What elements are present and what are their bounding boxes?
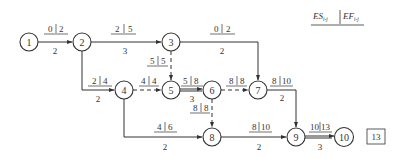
duration-label: 2 [53, 46, 58, 56]
es-label: 4 [157, 122, 162, 132]
ef-label: 8 [194, 76, 199, 86]
svg-text:4: 4 [122, 85, 127, 96]
es-label: 10 [310, 122, 320, 132]
es-label: 0 [48, 24, 53, 34]
es-label: 8 [229, 76, 234, 86]
ef-label: 8 [204, 103, 209, 113]
ef-label: 2 [59, 24, 64, 34]
legend-es: ES [312, 11, 323, 21]
activity-6-7: 8 8 [221, 76, 248, 90]
es-label: 5 [150, 56, 155, 66]
duration-label: 3 [318, 142, 323, 152]
svg-text:2: 2 [80, 37, 85, 48]
duration-label: 2 [257, 142, 262, 152]
duration-label: 2 [220, 46, 225, 56]
es-label: 8 [252, 122, 257, 132]
ef-label: 2 [226, 24, 231, 34]
duration-label: 2 [163, 142, 168, 152]
ef-label: 10 [261, 122, 271, 132]
duration-label: 3 [123, 46, 128, 56]
project-duration-box: 13 [367, 129, 385, 144]
svg-text:10: 10 [339, 132, 349, 143]
node-8: 8 [203, 128, 221, 146]
node-3: 3 [162, 33, 180, 51]
ef-label: 5 [161, 56, 166, 66]
duration-label: 2 [96, 94, 101, 104]
svg-text:5: 5 [169, 85, 174, 96]
network-diagram: ESi-j EFi-j 0 2 2 2 5 3 0 2 2 5 5 [0, 0, 401, 159]
ef-label: 4 [152, 76, 157, 86]
duration-label: 2 [280, 93, 285, 103]
activity-4-5: 4 4 [133, 76, 161, 90]
node-9: 9 [287, 128, 305, 146]
svg-text:9: 9 [294, 132, 299, 143]
es-label: 4 [141, 76, 146, 86]
node-7: 7 [249, 81, 267, 99]
ef-label: 5 [128, 24, 133, 34]
ef-label: 8 [240, 76, 245, 86]
node-5: 5 [162, 81, 180, 99]
es-label: 8 [193, 103, 198, 113]
es-label: 2 [115, 24, 120, 34]
node-1: 1 [20, 33, 38, 51]
ef-label: 6 [168, 122, 173, 132]
ef-label: 13 [321, 122, 331, 132]
activity-7-9: 8 10 2 [267, 76, 296, 127]
node-6: 6 [203, 81, 221, 99]
legend-ef: EF [342, 11, 354, 21]
activity-6-8: 8 8 [190, 99, 212, 127]
svg-text:1: 1 [27, 37, 32, 48]
activity-3-7: 0 2 2 [180, 24, 258, 80]
svg-text:3: 3 [169, 37, 174, 48]
svg-text:ESi-j: ESi-j [312, 11, 328, 22]
legend-es-sub: i-j [323, 16, 328, 22]
es-label: 0 [214, 24, 219, 34]
ef-label: 10 [282, 76, 292, 86]
project-duration-value: 13 [372, 132, 382, 142]
activity-4-8: 4 6 2 [124, 99, 202, 152]
activity-1-2: 0 2 2 [38, 24, 72, 56]
svg-text:EFi-j: EFi-j [342, 11, 359, 22]
node-4: 4 [115, 81, 133, 99]
es-label: 8 [272, 76, 277, 86]
activity-8-9: 8 10 2 [221, 122, 286, 152]
legend-ef-sub: i-j [354, 16, 359, 22]
svg-text:7: 7 [256, 85, 261, 96]
activity-2-3: 2 5 3 [91, 24, 161, 56]
legend: ESi-j EFi-j [311, 10, 364, 25]
ef-label: 4 [103, 76, 108, 86]
activity-2-4: 2 4 2 [82, 51, 114, 104]
activity-9-10: 10 13 3 [305, 122, 334, 152]
es-label: 2 [92, 76, 97, 86]
node-10: 10 [335, 128, 354, 147]
svg-text:6: 6 [210, 85, 215, 96]
node-2: 2 [73, 33, 91, 51]
svg-text:8: 8 [210, 132, 215, 143]
activity-3-5: 5 5 [147, 51, 171, 80]
activity-5-6: 5 8 3 [180, 76, 203, 104]
es-label: 5 [183, 76, 188, 86]
